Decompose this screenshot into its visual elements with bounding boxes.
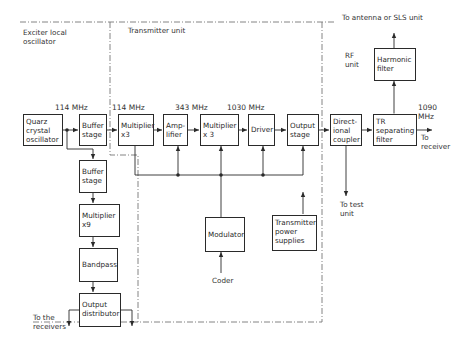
coder-input-label: Coder xyxy=(212,276,233,285)
transmitter-power-supplies-block: Transmitter power supplies xyxy=(272,215,317,251)
amplifier-block: Amp- lifier xyxy=(163,114,188,146)
tr-separating-filter-block: TR separating filter xyxy=(373,114,417,146)
freq-label-343: 343 MHz xyxy=(175,103,208,112)
buffer-stage-2-block: Buffer stage xyxy=(79,160,107,193)
output-stage-block: Output stage xyxy=(287,114,319,146)
multiplier-x9-block: Multiplier x9 xyxy=(79,204,120,237)
freq-label-1090: 1090 MHz xyxy=(418,103,437,121)
output-distributor-block: Output distributor xyxy=(79,293,121,327)
buffer-stage-1-block: Buffer stage xyxy=(79,114,107,146)
rf-region-label: RF unit xyxy=(345,51,359,69)
bandpass-block: Bandpass xyxy=(79,248,118,282)
unit-boundaries xyxy=(20,22,335,322)
antenna-output-label: To antenna or SLS unit xyxy=(342,13,423,22)
transmitter-region-label: Transmitter unit xyxy=(128,26,185,35)
test-unit-output-label: To test unit xyxy=(340,200,364,218)
modulator-block: Modulator xyxy=(205,217,245,252)
freq-label-1030: 1030 MHz xyxy=(227,103,265,112)
multiplier-x3-2-block: Multiplier x 3 xyxy=(200,114,239,146)
directional-coupler-block: Direct- ional coupler xyxy=(330,114,362,146)
block-diagram: Exciter local oscillator Transmitter uni… xyxy=(0,0,469,351)
multiplier-x3-1-block: Multiplier x3 xyxy=(118,114,154,146)
quarz-oscillator-block: Quarz crystal oscillator xyxy=(23,114,63,146)
driver-block: Driver xyxy=(248,114,275,146)
freq-label-114-exciter: 114 MHz xyxy=(55,103,88,112)
harmonic-filter-block: Harmonic filter xyxy=(374,48,416,81)
freq-label-114-transmitter: 114 MHz xyxy=(112,103,145,112)
receivers-output-label: To the receivers xyxy=(33,313,66,331)
exciter-region-label: Exciter local oscillator xyxy=(23,28,67,46)
receiver-output-label: To receiver xyxy=(421,133,450,151)
